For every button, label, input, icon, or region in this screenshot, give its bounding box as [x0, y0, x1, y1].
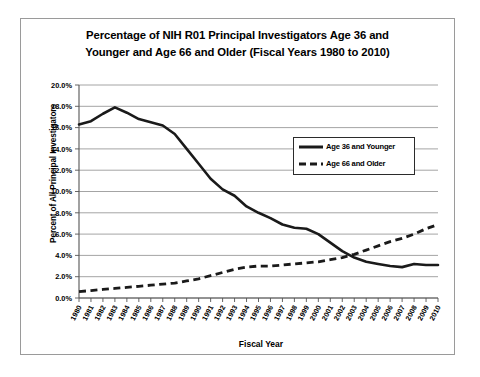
y-tick-label: 6.0%: [55, 230, 72, 239]
legend-label-age-66-and-older: Age 66 and Older: [326, 159, 385, 168]
y-tick-label: 16.0%: [51, 123, 72, 132]
y-tick-label: 0.0%: [55, 294, 72, 303]
series-line-age-66-and-older: [79, 225, 438, 292]
chart-legend: Age 36 and Younger Age 66 and Older: [293, 137, 415, 175]
x-axis-labels: 1980198119821983198419851986198719881989…: [68, 304, 442, 322]
legend-item-age-66-and-older: Age 66 and Older: [294, 155, 414, 172]
legend-label-age-36-and-younger: Age 36 and Younger: [326, 142, 395, 151]
series-line-age-36-and-younger: [79, 107, 438, 267]
y-tick-label: 8.0%: [55, 209, 72, 218]
y-tick-label: 12.0%: [51, 166, 72, 175]
x-tick-label: 2010: [427, 304, 442, 322]
x-axis-ticks: [79, 298, 438, 302]
data-series: [79, 107, 438, 291]
y-tick-label: 18.0%: [51, 102, 72, 111]
y-tick-label: 10.0%: [51, 187, 72, 196]
y-axis-ticks: 0.0%2.0%4.0%6.0%8.0%10.0%12.0%14.0%16.0%…: [51, 81, 79, 303]
y-tick-label: 14.0%: [51, 145, 72, 154]
y-tick-label: 4.0%: [55, 251, 72, 260]
legend-item-age-36-and-younger: Age 36 and Younger: [294, 138, 414, 155]
chart-figure-frame: Percentage of NIH R01 Principal Investig…: [20, 18, 455, 355]
plot-area: 0.0%2.0%4.0%6.0%8.0%10.0%12.0%14.0%16.0%…: [21, 19, 456, 356]
y-tick-label: 2.0%: [55, 272, 72, 281]
y-tick-label: 20.0%: [51, 81, 72, 90]
legend-swatch-dashed-icon: [298, 159, 324, 169]
chart-canvas: 0.0%2.0%4.0%6.0%8.0%10.0%12.0%14.0%16.0%…: [21, 19, 456, 356]
legend-swatch-solid-icon: [298, 142, 324, 152]
